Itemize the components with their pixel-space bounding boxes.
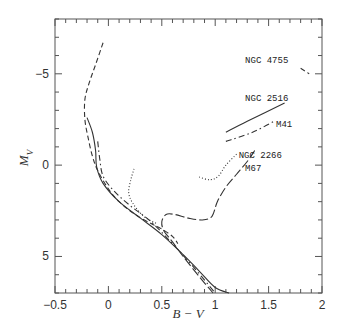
x-tick-label: 2 bbox=[319, 298, 326, 312]
label-ngc-2516: NGC 2516 bbox=[245, 94, 288, 104]
cluster-labels: NGC 4755NGC 2516M41NGC 2266M67 bbox=[239, 56, 293, 174]
y-tick-label: −5 bbox=[35, 67, 49, 81]
sequence-m41 bbox=[98, 141, 215, 293]
sequence-ngc-2516 bbox=[87, 118, 229, 293]
x-tick-label: −0.5 bbox=[43, 298, 67, 312]
x-tick-label: 0 bbox=[105, 298, 112, 312]
sequence-m67 bbox=[162, 151, 255, 293]
sequence-m41 bbox=[226, 121, 274, 141]
y-tick-label: 5 bbox=[42, 249, 49, 263]
x-tick-label: 1.5 bbox=[260, 298, 277, 312]
label-ngc-4755: NGC 4755 bbox=[245, 56, 288, 66]
y-axis-title: MV bbox=[16, 148, 35, 167]
x-axis-title: B − V bbox=[172, 306, 205, 321]
y-tick-label: 0 bbox=[42, 158, 49, 172]
label-m67: M67 bbox=[245, 164, 261, 174]
x-tick-label: 1 bbox=[212, 298, 219, 312]
sequence-ngc-2266 bbox=[199, 154, 236, 180]
label-ngc-2266: NGC 2266 bbox=[239, 151, 282, 161]
sequence-ngc-2266 bbox=[129, 169, 157, 224]
color-magnitude-diagram: −0.500.511.52−505 NGC 4755NGC 2516M41NGC… bbox=[0, 0, 340, 334]
sequence-ngc-4755 bbox=[301, 68, 310, 73]
x-tick-label: 0.5 bbox=[153, 298, 170, 312]
label-m41: M41 bbox=[276, 120, 292, 130]
cluster-sequences bbox=[84, 43, 309, 293]
